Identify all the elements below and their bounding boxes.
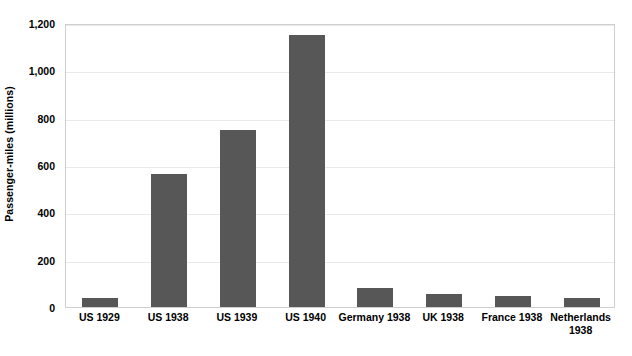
bars-layer bbox=[66, 25, 614, 307]
y-axis-tick-label: 0 bbox=[49, 302, 55, 314]
plot-area bbox=[65, 24, 615, 308]
y-axis-title: Passenger-miles (millions) bbox=[0, 0, 18, 308]
y-axis-title-label: Passenger-miles (millions) bbox=[3, 86, 15, 222]
x-axis-tick-label: Netherlands 1938 bbox=[539, 311, 622, 337]
y-axis-tick-label: 1,000 bbox=[29, 65, 55, 77]
y-axis-tick-label: 1,200 bbox=[29, 18, 55, 30]
bar bbox=[426, 294, 462, 307]
bar-chart: Passenger-miles (millions) 0200400600800… bbox=[0, 0, 632, 356]
y-axis-tick-label: 200 bbox=[37, 255, 55, 267]
bar bbox=[495, 296, 531, 307]
y-axis-tick-label: 800 bbox=[37, 113, 55, 125]
bar bbox=[357, 288, 393, 307]
bar bbox=[564, 298, 600, 307]
x-axis-tick-labels: US 1929US 1938US 1939US 1940Germany 1938… bbox=[65, 311, 615, 355]
y-axis-tick-labels: 02004006008001,0001,200 bbox=[18, 0, 60, 320]
bar bbox=[289, 35, 325, 307]
y-axis-tick-label: 400 bbox=[37, 207, 55, 219]
bar bbox=[220, 130, 256, 308]
y-axis-tick-label: 600 bbox=[37, 160, 55, 172]
bar bbox=[82, 298, 118, 307]
bar bbox=[151, 174, 187, 307]
